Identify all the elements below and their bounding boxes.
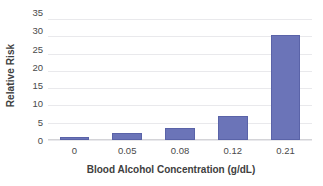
y-axis-tick-label: 0 (38, 136, 43, 146)
y-axis-tick-label: 5 (38, 118, 43, 128)
y-axis-title-text: Relative Risk (6, 43, 17, 107)
bar-slot (154, 19, 207, 140)
x-axis-tick-labels: 00.050.080.120.21 (48, 143, 312, 159)
y-axis-tick-label: 15 (32, 81, 43, 91)
x-axis-tick-label: 0.21 (259, 143, 312, 159)
plot-area (48, 19, 312, 140)
y-axis-tick-label: 35 (32, 8, 43, 18)
y-axis-tick-label: 25 (32, 45, 43, 55)
y-axis-tick-label: 20 (32, 63, 43, 73)
bar[interactable] (218, 116, 248, 140)
y-axis-tick-label: 30 (32, 27, 43, 37)
x-axis-tick-label: 0 (48, 143, 101, 159)
x-axis-tick-label: 0.12 (206, 143, 259, 159)
y-axis-tick-labels: 05101520253035 (22, 13, 46, 141)
bar-slot (206, 19, 259, 140)
bar[interactable] (271, 35, 301, 140)
x-axis-tick-label: 0.08 (154, 143, 207, 159)
bar-chart: Relative Risk 05101520253035 00.050.080.… (0, 0, 323, 186)
y-axis-title: Relative Risk (0, 0, 22, 150)
gridline (48, 140, 312, 141)
bar[interactable] (60, 137, 90, 140)
bar[interactable] (112, 133, 142, 140)
x-axis-title: Blood Alcohol Concentration (g/dL) (30, 164, 312, 175)
bar[interactable] (165, 128, 195, 140)
bars-layer (48, 19, 312, 140)
bar-slot (259, 19, 312, 140)
y-axis-tick-label: 10 (32, 100, 43, 110)
bar-slot (48, 19, 101, 140)
x-axis-tick-label: 0.05 (101, 143, 154, 159)
bar-slot (101, 19, 154, 140)
